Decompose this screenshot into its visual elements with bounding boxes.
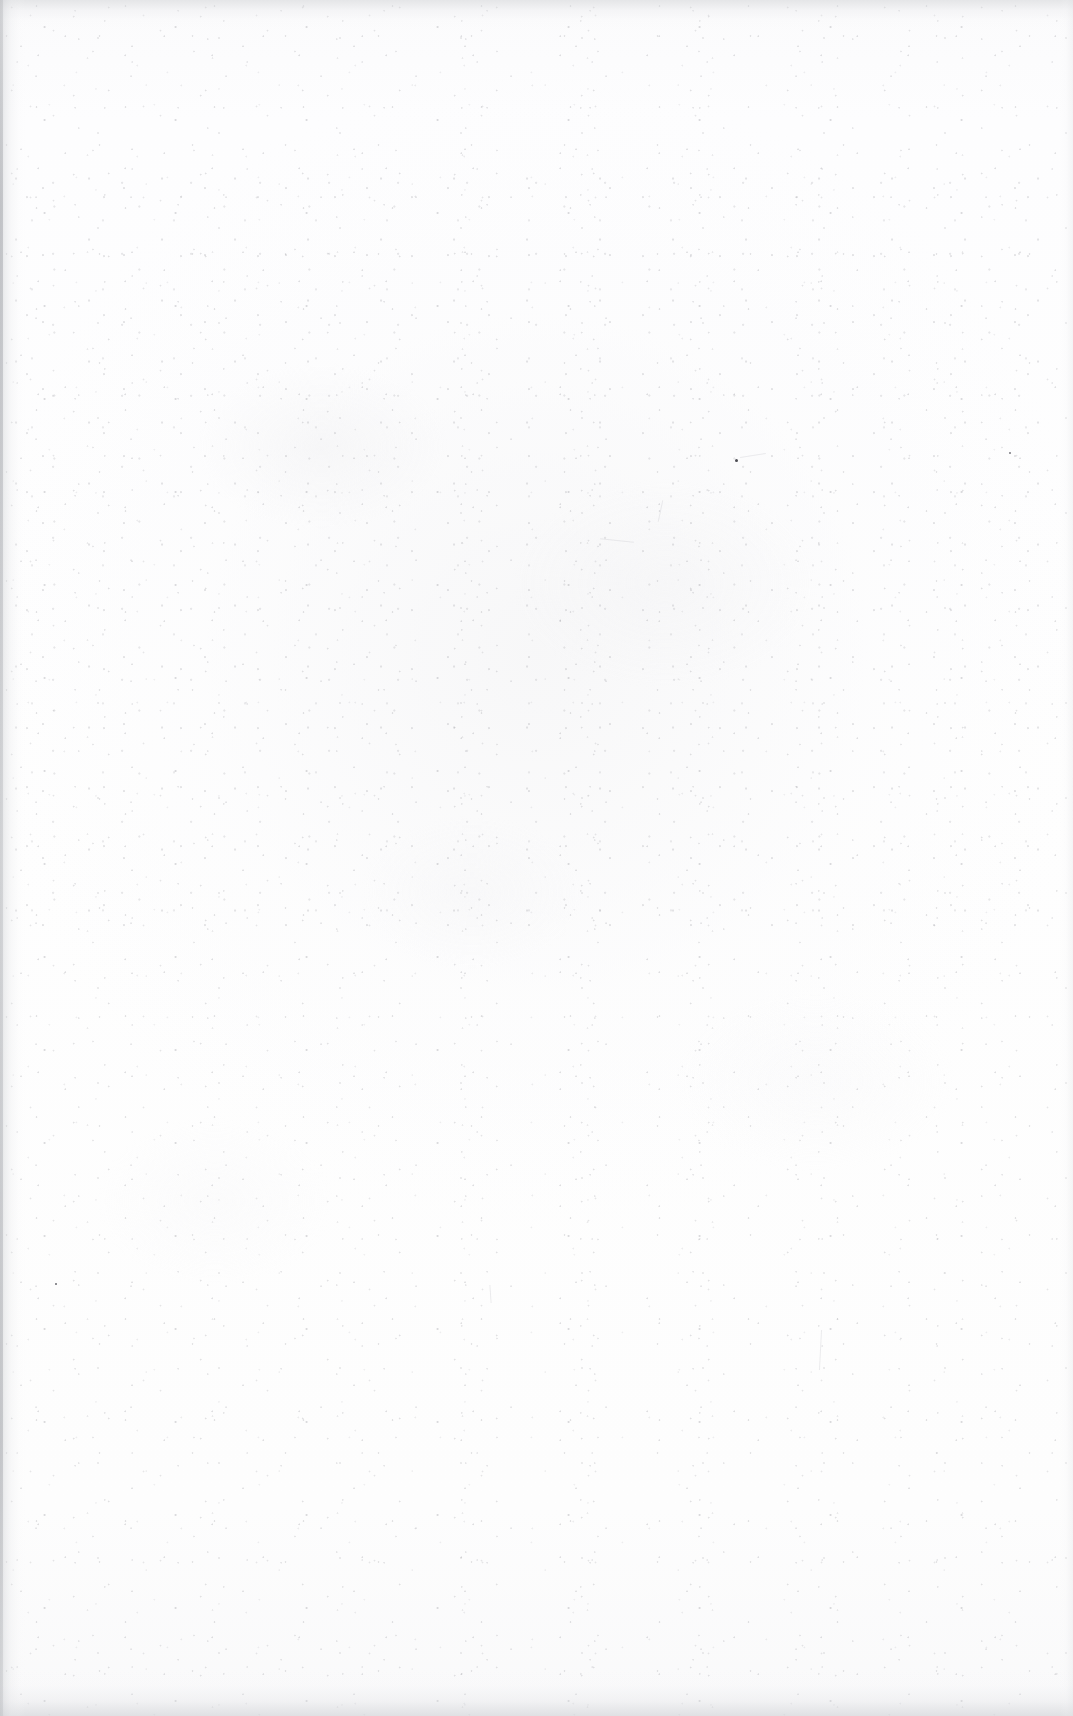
page-content-area: [0, 0, 1073, 1716]
scanned-page: [0, 0, 1073, 1716]
